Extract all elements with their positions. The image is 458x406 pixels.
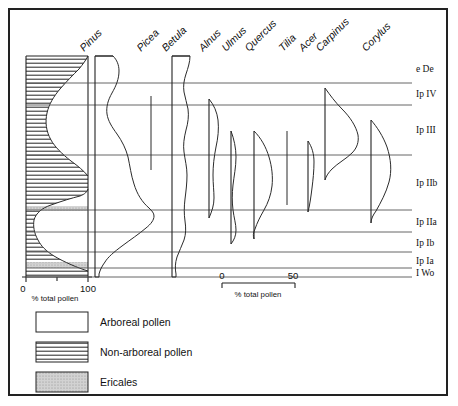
taxon-curve-quercus [253,131,272,239]
taxa-scale-bar: 0 50 % total pollen [219,270,298,299]
summary-tick-label-100: 100 [80,283,96,294]
taxon-label-tilia: Tilia [276,31,298,53]
taxa-label-row: Pinus Picea Betula Alnus Ulmus Quercus T… [77,15,393,54]
taxon-label-carpinus: Carpinus [313,15,352,54]
zone-label-e-de: e De [416,64,434,74]
acer-curve [308,141,314,212]
carpinus-curve [325,88,358,180]
taxon-label-alnus: Alnus [195,26,223,54]
legend-label-arboreal: Arboreal pollen [100,316,171,328]
summary-axis-caption: % total pollen [32,294,79,303]
taxon-curve-carpinus [325,88,358,180]
taxon-curve-corylus [371,120,391,223]
diagram-canvas: 0 100 % total pollen [0,0,458,406]
zone-label-ip-iia: Ip IIa [416,217,438,227]
pollen-diagram-figure: 0 100 % total pollen [0,0,458,406]
taxon-label-pinus: Pinus [77,26,105,54]
taxon-label-picea: Picea [134,26,161,53]
taxa-axis-caption: % total pollen [235,290,282,299]
taxon-curve-pinus [95,56,154,277]
zone-label-ip-iv: Ip IV [416,89,436,99]
quercus-curve [253,131,272,239]
legend-swatch-arboreal [36,312,88,332]
taxon-label-quercus: Quercus [242,16,279,53]
ericales-band-2 [26,262,88,268]
zone-label-i-wo: I Wo [416,268,435,278]
zone-label-ip-iib: Ip IIb [416,178,438,188]
zone-label-ip-iii: Ip III [416,125,436,135]
legend-label-non-arboreal: Non-arboreal pollen [100,346,192,358]
taxon-curve-alnus [209,99,218,218]
betula-curve [172,56,190,277]
alnus-curve [209,99,218,218]
taxa-tick-label-0: 0 [219,270,224,281]
zone-label-column: e De Ip IV Ip III Ip IIb Ip IIa Ip Ib Ip… [416,64,438,278]
pinus-curve [95,56,154,277]
zone-label-ip-ib: Ip Ib [416,238,434,248]
zone-label-ip-ia: Ip Ia [416,256,434,266]
taxon-label-corylus: Corylus [359,19,393,53]
legend-swatch-ericales [36,372,88,392]
corylus-curve [371,120,391,223]
taxon-label-betula: Betula [159,24,189,54]
taxa-tick-label-50: 50 [288,270,299,281]
taxon-curve-betula [172,56,190,277]
legend: Arboreal pollen Non-arboreal pollen Eric… [36,312,192,392]
taxon-curve-ulmus [231,131,236,244]
legend-label-ericales: Ericales [100,376,137,388]
ulmus-curve [231,131,236,244]
summary-column: 0 100 % total pollen [20,56,96,303]
taxon-label-ulmus: Ulmus [219,23,249,53]
taxon-curve-acer [308,141,314,212]
legend-swatch-non-arboreal [36,342,88,362]
summary-tick-label-0: 0 [20,283,25,294]
